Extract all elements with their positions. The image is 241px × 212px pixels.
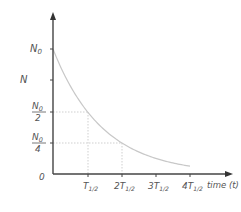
label-n0-quarter: N0 4 bbox=[32, 132, 46, 154]
x-axis-label: time (t) bbox=[207, 180, 239, 190]
origin-label: 0 bbox=[39, 172, 45, 182]
svg-text:T1/2: T1/2 bbox=[83, 181, 98, 192]
axes bbox=[53, 18, 228, 174]
svg-text:2T1/2: 2T1/2 bbox=[114, 181, 135, 192]
y-axis-arrow-icon bbox=[50, 12, 56, 20]
svg-text:N0: N0 bbox=[32, 132, 43, 144]
svg-text:N0: N0 bbox=[30, 43, 42, 56]
label-n0: N0 bbox=[30, 43, 42, 56]
x-tick-label-2: 2T1/2 bbox=[114, 181, 135, 192]
svg-text:4T1/2: 4T1/2 bbox=[182, 181, 203, 192]
x-tick-label-1: T1/2 bbox=[83, 181, 98, 192]
decay-curve bbox=[53, 49, 190, 166]
x-tick-label-3: 3T1/2 bbox=[148, 181, 169, 192]
svg-text:4: 4 bbox=[35, 144, 41, 154]
guide-lines bbox=[53, 112, 122, 174]
x-axis-arrow-icon bbox=[225, 171, 233, 177]
svg-text:N0: N0 bbox=[32, 101, 43, 113]
decay-chart: N N0 N0 2 N0 4 0 T1/2 2T1/2 3T1/2 4T1/2 … bbox=[0, 0, 241, 212]
x-tick-label-4: 4T1/2 bbox=[182, 181, 203, 192]
svg-text:3T1/2: 3T1/2 bbox=[148, 181, 169, 192]
label-n0-half: N0 2 bbox=[32, 101, 46, 123]
svg-text:2: 2 bbox=[35, 113, 41, 123]
y-axis-label: N bbox=[20, 74, 28, 85]
